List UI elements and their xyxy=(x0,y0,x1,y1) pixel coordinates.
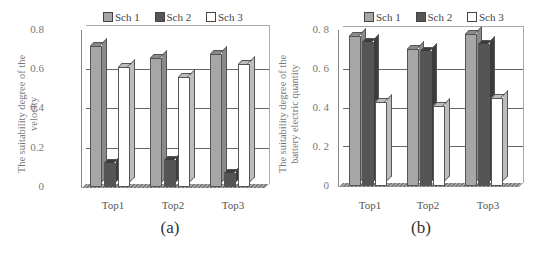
bar-top2-sch1 xyxy=(150,58,162,187)
legend-item-sch3: Sch 3 xyxy=(206,11,243,23)
bar-top2-sch3 xyxy=(433,106,445,186)
legend-item-sch1: Sch 1 xyxy=(103,11,140,23)
bar-top2-sch2 xyxy=(420,51,432,186)
subfigure-caption: (b) xyxy=(401,218,441,238)
legend: Sch 1 Sch 2 Sch 3 xyxy=(364,11,516,23)
legend-label: Sch 3 xyxy=(218,11,243,23)
legend-swatch-sch3 xyxy=(206,12,216,22)
legend-swatch-sch2 xyxy=(155,12,165,22)
bar-top3-sch2 xyxy=(478,44,490,186)
y-tick: 0.8 xyxy=(18,23,44,35)
y-tick: 0. 8 xyxy=(303,23,329,35)
bar-top1-sch3 xyxy=(375,102,387,186)
y-axis-line xyxy=(338,30,339,187)
x-category-label: Top2 xyxy=(153,199,193,211)
legend-swatch-sch3 xyxy=(467,12,477,22)
chart-panel-b: Sch 1 Sch 2 Sch 3 The suitability degree… xyxy=(275,0,550,258)
subfigure-caption: (a) xyxy=(150,218,190,238)
bar-top1-sch1 xyxy=(90,46,102,187)
bar-top1-sch3 xyxy=(118,67,130,187)
y-axis-label-line2: velocity xyxy=(28,34,40,194)
bar-top2-sch1 xyxy=(407,49,419,186)
y-axis-label-line1: The suitability degree of the xyxy=(16,34,28,194)
bar-side xyxy=(387,94,392,181)
y-axis-label-line2: battery electric quantity xyxy=(289,34,301,194)
x-category-label: Top1 xyxy=(93,199,133,211)
legend-label: Sch 3 xyxy=(479,11,504,23)
bar-side xyxy=(130,59,135,182)
bar-top3-sch1 xyxy=(210,54,222,187)
x-category-label: Top3 xyxy=(468,199,508,211)
y-axis-label: The suitability degree of the battery el… xyxy=(277,34,301,194)
legend-swatch-sch1 xyxy=(103,12,113,22)
legend-item-sch3: Sch 3 xyxy=(467,11,504,23)
bar-top3-sch1 xyxy=(465,34,477,186)
legend-item-sch2: Sch 2 xyxy=(155,11,192,23)
x-category-label: Top2 xyxy=(408,199,448,211)
x-category-label: Top1 xyxy=(350,199,390,211)
y-tick: 0. 4 xyxy=(303,101,329,113)
x-category-label: Top3 xyxy=(213,199,253,211)
legend-swatch-sch2 xyxy=(416,12,426,22)
bar-side xyxy=(503,90,508,181)
y-tick: 0.2 xyxy=(18,141,44,153)
bar-top1-sch1 xyxy=(349,36,361,186)
y-tick: 0.6 xyxy=(18,62,44,74)
y-tick: 0. 2 xyxy=(303,140,329,152)
y-axis-label-line1: The suitability degree of the xyxy=(277,34,289,194)
bar-side xyxy=(222,46,227,182)
y-axis-line xyxy=(81,30,82,188)
bar-side xyxy=(190,69,195,182)
y-tick: 0 xyxy=(303,179,329,191)
bar-side xyxy=(250,56,255,182)
bar-top3-sch3 xyxy=(491,98,503,186)
y-tick: 0 xyxy=(18,180,44,192)
y-tick: 0. 6 xyxy=(303,62,329,74)
bar-top3-sch3 xyxy=(238,64,250,187)
bar-side xyxy=(445,98,450,181)
chart-panel-a: Sch 1 Sch 2 Sch 3 The suitability degree… xyxy=(0,0,275,258)
legend-label: Sch 2 xyxy=(428,11,453,23)
legend-item-sch2: Sch 2 xyxy=(416,11,453,23)
legend-item-sch1: Sch 1 xyxy=(364,11,401,23)
bar-top3-sch2 xyxy=(224,173,236,187)
legend-label: Sch 2 xyxy=(167,11,192,23)
bar-top2-sch3 xyxy=(178,77,190,187)
legend-label: Sch 1 xyxy=(376,11,401,23)
bar-top1-sch2 xyxy=(362,42,374,186)
legend-swatch-sch1 xyxy=(364,12,374,22)
bar-top1-sch2 xyxy=(104,163,116,187)
legend: Sch 1 Sch 2 Sch 3 xyxy=(103,11,255,23)
legend-label: Sch 1 xyxy=(115,11,140,23)
y-tick: 0.4 xyxy=(18,101,44,113)
bar-top2-sch2 xyxy=(164,160,176,187)
y-axis-label: The suitability degree of the velocity xyxy=(16,34,40,194)
